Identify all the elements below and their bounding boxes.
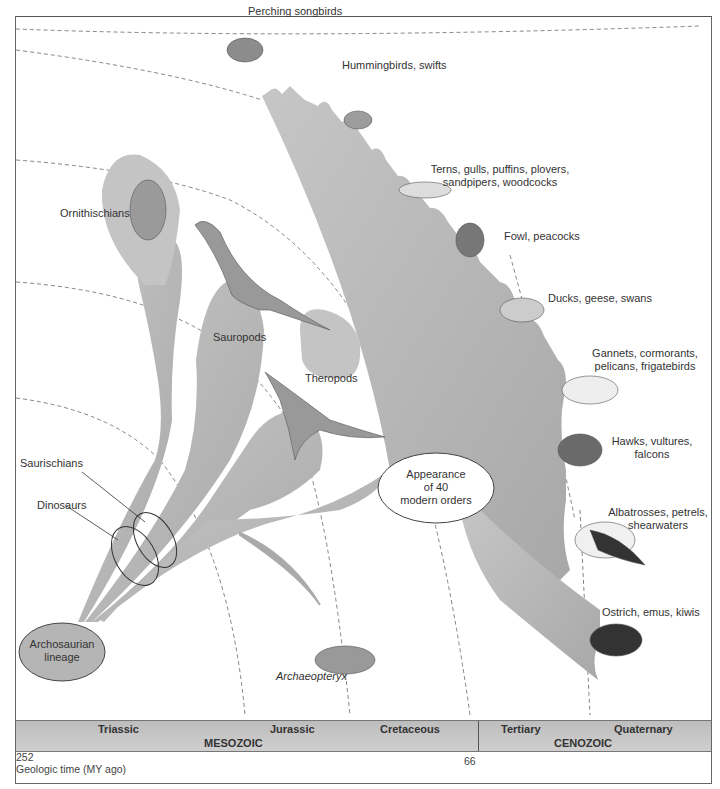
label-gannets: Gannets, cormorants,pelicans, frigatebir… [582, 347, 708, 373]
tick-252: 252 [16, 751, 34, 763]
axis-label: Geologic time (MY ago) [16, 763, 126, 775]
period-cretaceous: Cretaceous [380, 723, 440, 735]
era-divider [478, 721, 479, 751]
label-ostrich: Ostrich, emus, kiwis [602, 606, 700, 619]
label-theropods: Theropods [305, 372, 358, 385]
label-perching-songbirds: Perching songbirds [248, 5, 342, 18]
archaeopteryx-branch [240, 533, 320, 605]
period-tertiary: Tertiary [501, 723, 541, 735]
label-albatrosses: Albatrosses, petrels,shearwaters [603, 506, 713, 532]
geologic-timescale: Triassic Jurassic Cretaceous Tertiary Qu… [16, 720, 711, 752]
era-mesozoic: MESOZOIC [204, 737, 263, 749]
label-ornithischians: Ornithischians [60, 207, 130, 220]
label-hummingbirds: Hummingbirds, swifts [342, 59, 447, 72]
label-archaeopteryx: Archaeopteryx [276, 670, 347, 683]
phylogeny-graphic [0, 0, 720, 789]
label-ducks: Ducks, geese, swans [548, 292, 652, 305]
label-dinosaurs: Dinosaurs [37, 499, 87, 512]
label-terns-gulls: Terns, gulls, puffins, plovers,sandpiper… [424, 163, 576, 189]
period-jurassic: Jurassic [270, 723, 315, 735]
tick-66: 66 [464, 755, 476, 767]
period-triassic: Triassic [98, 723, 139, 735]
period-quaternary: Quaternary [614, 723, 673, 735]
label-hawks: Hawks, vultures,falcons [607, 435, 697, 461]
label-modern-orders: Appearanceof 40modern orders [383, 468, 489, 507]
label-saurischians: Saurischians [20, 457, 83, 470]
label-archosaurian-lineage: Archosaurianlineage [22, 638, 102, 664]
era-cenozoic: CENOZOIC [554, 737, 612, 749]
label-fowl: Fowl, peacocks [504, 230, 580, 243]
label-sauropods: Sauropods [213, 331, 266, 344]
